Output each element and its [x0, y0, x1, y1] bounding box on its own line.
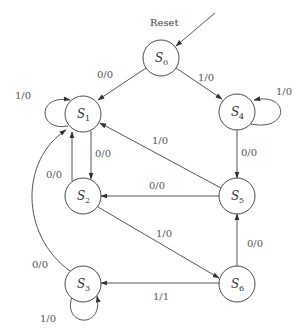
transition-s6-s5: 0/0: [237, 214, 263, 266]
transition-s2-s1: 0/0: [46, 132, 72, 181]
transition-s6-s3: 1/1: [101, 283, 219, 302]
svg-text:S: S: [155, 51, 163, 65]
svg-text:S: S: [231, 189, 239, 203]
transition-label: 1/0: [156, 228, 172, 239]
transition-label: 1/1: [153, 291, 169, 302]
reset-label: Reset: [150, 17, 179, 28]
state-s0: S 0: [143, 40, 179, 76]
svg-text:S: S: [77, 189, 85, 203]
transition-s0-s4: 1/0: [176, 68, 222, 99]
svg-text:S: S: [77, 277, 85, 291]
svg-text:S: S: [231, 277, 239, 291]
state-s1: S 1: [65, 96, 101, 132]
transition-s3-s1: 0/0: [32, 130, 70, 271]
transition-s4-s5: 0/0: [237, 130, 257, 178]
transition-label: 1/0: [276, 86, 292, 97]
svg-text:S: S: [231, 105, 239, 119]
arrow-icon: [98, 207, 219, 278]
state-s6: S 6: [219, 266, 255, 302]
svg-text:4: 4: [239, 112, 244, 121]
svg-text:S: S: [77, 107, 85, 121]
svg-text:2: 2: [85, 196, 90, 205]
state-diagram: Reset 0/0 1/0 1/0 0/0 0/0 1/0 0/0 1/0: [0, 0, 303, 334]
transition-s1-s2: 0/0: [91, 131, 111, 179]
state-s5: S 5: [219, 178, 255, 214]
state-s2: S 2: [65, 178, 101, 214]
transition-label: 1/0: [152, 135, 168, 146]
transition-label: 0/0: [97, 69, 113, 80]
state-s3: S 3: [65, 266, 101, 302]
transition-label: 1/0: [15, 90, 31, 101]
transition-label: 1/0: [40, 313, 56, 324]
transition-s5-s1: 1/0: [100, 123, 221, 188]
arrow-icon: [100, 123, 221, 188]
transition-label: 0/0: [32, 259, 48, 270]
svg-text:5: 5: [239, 196, 244, 205]
transition-label: 0/0: [46, 169, 62, 180]
transition-s2-s6: 1/0: [98, 207, 219, 278]
transition-s4-s4: 1/0: [251, 86, 292, 125]
curved-arrow-icon: [32, 130, 70, 271]
transition-label: 1/0: [198, 72, 214, 83]
transition-label: 0/0: [149, 180, 165, 191]
svg-text:0: 0: [163, 58, 168, 67]
transition-s5-s2: 0/0: [101, 180, 219, 196]
reset-arrow-icon: [176, 13, 215, 46]
state-s4: S 4: [219, 94, 255, 130]
transition-label: 0/0: [241, 147, 257, 158]
transition-label: 0/0: [247, 238, 263, 249]
svg-text:6: 6: [239, 284, 244, 293]
transition-label: 0/0: [95, 148, 111, 159]
svg-text:3: 3: [85, 284, 90, 293]
transition-s0-s1: 0/0: [97, 68, 146, 100]
transition-s1-s1: 1/0: [15, 90, 70, 127]
svg-text:1: 1: [85, 114, 90, 123]
